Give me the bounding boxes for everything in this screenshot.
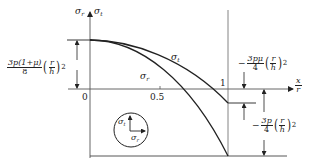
- center-value-annotation: 3p(1+μ)8 ( rh ) 2: [7, 52, 66, 77]
- edge-sigma-t-annotation: − 3pμ4 ( rh ) 2: [238, 53, 287, 72]
- x-axis-label: xr: [295, 77, 302, 95]
- sigma-r-curve-label: σr: [140, 72, 149, 82]
- diagram-graphics: [0, 0, 310, 166]
- inset-sigma-t-label: σt: [118, 118, 125, 127]
- plate-stress-distribution-diagram: σr σt 0 0.5 1 xr σt σr 3p(1+μ)8 ( rh ) 2…: [0, 0, 310, 166]
- tick-label-1: 1: [220, 79, 226, 88]
- origin-label: 0: [82, 93, 88, 102]
- edge-sigma-r-annotation: − 3p4 ( rh ) 2: [252, 115, 296, 134]
- tick-label-0-5: 0.5: [150, 93, 164, 102]
- inset-sigma-r-label: σr: [131, 134, 139, 143]
- y-axis-label-sigma-r: σr: [75, 7, 84, 18]
- y-axis-label-sigma-t: σt: [94, 7, 103, 17]
- sigma-t-curve-label: σt: [171, 53, 180, 63]
